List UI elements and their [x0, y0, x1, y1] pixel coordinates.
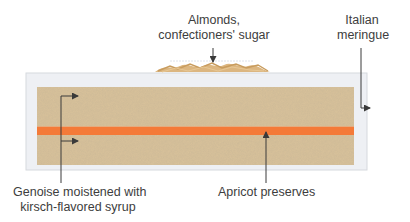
apricot-layer [37, 126, 354, 135]
genoise-label: Genoise moistened with kirsch-flavored s… [13, 185, 143, 215]
almonds-label: Almonds, confectioners' sugar [158, 13, 270, 43]
meringue-label: Italian meringue [337, 13, 387, 43]
cake-diagram: Almonds, confectioners' sugar Italian me… [0, 0, 410, 222]
almond-topping [155, 61, 270, 72]
apricot-label: Apricot preserves [218, 185, 314, 200]
